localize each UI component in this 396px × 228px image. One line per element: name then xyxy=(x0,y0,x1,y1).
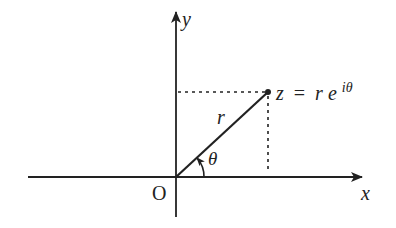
x-axis-label: x xyxy=(360,182,370,204)
exponential-base: e xyxy=(328,82,337,104)
y-axis-label: y xyxy=(180,8,191,31)
point-z-symbol: z xyxy=(275,82,284,104)
radius-vector-r xyxy=(176,92,268,177)
equals-sign: = xyxy=(294,82,305,104)
point-z-label: z = r e iθ xyxy=(275,80,353,104)
origin-label: O xyxy=(152,182,166,204)
angle-theta-arc xyxy=(197,158,204,177)
point-z-dot xyxy=(265,89,271,95)
angle-theta-label: θ xyxy=(208,148,217,169)
radius-label: r xyxy=(217,106,225,128)
modulus-symbol: r xyxy=(315,82,323,104)
exponent-i-theta: iθ xyxy=(342,80,353,95)
complex-plane-diagram: y x O r θ z = r e iθ xyxy=(0,0,396,228)
